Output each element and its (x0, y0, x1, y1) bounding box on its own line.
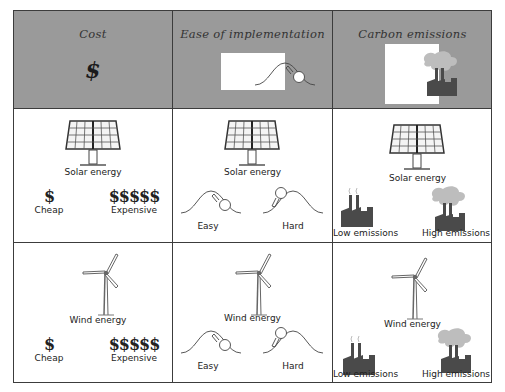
header-cell-ease: Ease of implementation (173, 11, 332, 109)
easy-label: Easy (188, 221, 228, 231)
cell-wind-emissions: Wind energy Low emissions High emissions (333, 243, 492, 383)
expensive-symbol: $$$$$ (104, 335, 164, 354)
header-title-carbon: Carbon emissions (333, 27, 492, 41)
low-emissions-label: Low emissions (333, 228, 395, 238)
cell-wind-cost: Wind energy $ Cheap $$$$$ Expensive (14, 243, 172, 383)
hard-label: Hard (273, 221, 313, 231)
cheap-label: Cheap (29, 205, 69, 215)
expensive-symbol: $$$$$ (104, 187, 164, 206)
header-title-ease: Ease of implementation (173, 27, 332, 41)
factory-low-emissions-icon (339, 187, 377, 229)
cell-wind-ease: Wind energy Easy Hard (173, 243, 332, 383)
high-emissions-label: High emissions (421, 228, 491, 238)
solar-panel-icon (225, 119, 281, 167)
low-emissions-label: Low emissions (333, 369, 395, 379)
energy-label: Solar energy (343, 173, 492, 183)
easy-label: Easy (188, 361, 228, 371)
boulder-easy-icon (181, 327, 245, 357)
expensive-label: Expensive (104, 353, 164, 363)
cell-solar-emissions: Solar energy Low emissions High emission… (333, 109, 492, 242)
boulder-hard-icon (263, 187, 327, 217)
cheap-symbol: $ (34, 335, 64, 354)
cell-solar-cost: Solar energy $ Cheap $$$$$ Expensive (14, 109, 172, 242)
boulder-hard-icon (263, 327, 327, 357)
energy-label: Solar energy (173, 167, 332, 177)
boulder-easy-icon (181, 187, 245, 217)
energy-label: Wind energy (333, 319, 492, 329)
energy-label: Wind energy (173, 313, 332, 323)
energy-label: Wind energy (24, 315, 172, 325)
cell-solar-ease: Solar energy Easy Hard (173, 109, 332, 242)
wind-turbine-icon (389, 257, 429, 321)
energy-comparison-table: Cost $ Ease of implementation Carbon emi… (13, 10, 492, 383)
cheap-symbol: $ (34, 187, 64, 206)
factory-high-emissions-icon (435, 329, 475, 373)
expensive-label: Expensive (104, 205, 164, 215)
wind-turbine-icon (233, 253, 273, 317)
header-cell-carbon: Carbon emissions (333, 11, 492, 109)
header-cell-cost: Cost $ (14, 11, 172, 109)
energy-label: Solar energy (14, 167, 172, 177)
solar-panel-icon (390, 123, 446, 171)
header-title-cost: Cost (14, 27, 172, 41)
cheap-label: Cheap (29, 353, 69, 363)
factory-smoke-icon (385, 44, 439, 104)
wind-turbine-icon (80, 253, 120, 317)
factory-high-emissions-icon (429, 187, 469, 231)
dollar-sign-icon: $ (14, 57, 172, 83)
boulder-uphill-icon (221, 53, 285, 90)
hard-label: Hard (273, 361, 313, 371)
high-emissions-label: High emissions (421, 369, 491, 379)
solar-panel-icon (66, 119, 122, 167)
